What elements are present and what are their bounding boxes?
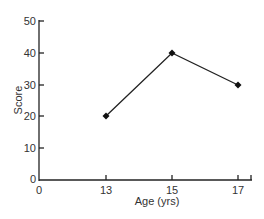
x-tick-0: 0 bbox=[36, 184, 42, 196]
y-axis bbox=[39, 20, 44, 181]
y-tick-labels: 50 40 30 20 10 0 bbox=[24, 15, 36, 185]
x-axis bbox=[39, 175, 252, 180]
y-tick-40: 40 bbox=[24, 47, 36, 59]
x-tick-13: 13 bbox=[100, 184, 112, 196]
line-chart: 50 40 30 20 10 0 0 13 15 17 Age (yrs) Sc… bbox=[0, 0, 264, 219]
y-tick-20: 20 bbox=[24, 110, 36, 122]
y-tick-30: 30 bbox=[24, 79, 36, 91]
y-tick-10: 10 bbox=[24, 142, 36, 154]
data-point-17 bbox=[235, 82, 242, 89]
x-tick-17: 17 bbox=[232, 184, 244, 196]
x-axis-label: Age (yrs) bbox=[135, 195, 180, 207]
series-line bbox=[106, 53, 238, 116]
data-series bbox=[103, 50, 242, 120]
y-tick-50: 50 bbox=[24, 15, 36, 27]
y-axis-label: Score bbox=[12, 86, 24, 115]
